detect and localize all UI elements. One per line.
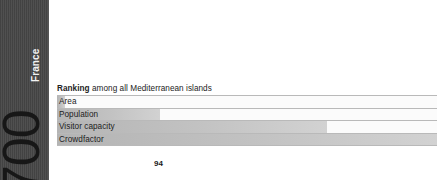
ranking-title-rest: among all Mediterranean islands <box>90 84 212 93</box>
bar-label-population: Population <box>59 109 98 121</box>
bar-row: Population <box>57 108 437 121</box>
island-number: 2700 <box>0 12 42 180</box>
bar-row: Visitor capacity <box>57 120 437 133</box>
bar-label-visitor-capacity: Visitor capacity <box>59 121 115 133</box>
bar-label-crowdfactor: Crowdfactor <box>59 134 104 146</box>
content-area: Ranking among all Mediterranean islands … <box>49 0 442 180</box>
side-panel: France 2700 <box>0 0 49 180</box>
bar-row: Crowdfactor <box>57 133 437 147</box>
ranking-title: Ranking among all Mediterranean islands <box>57 83 437 94</box>
bar-track <box>57 96 437 108</box>
ranking-chart: Ranking among all Mediterranean islands … <box>57 83 437 146</box>
page-number: 94 <box>49 159 442 168</box>
bar-fill-crowdfactor <box>57 134 437 146</box>
bar-label-area: Area <box>59 96 77 108</box>
ranking-title-bold: Ranking <box>57 84 90 93</box>
bar-row: Area <box>57 95 437 108</box>
